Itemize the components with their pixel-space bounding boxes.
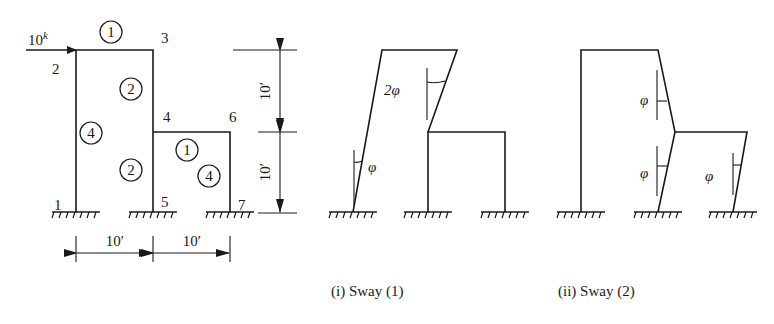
member-label-beam-2-3: 1 — [100, 21, 122, 43]
angle-label-phi-right: φ — [705, 168, 713, 184]
sway-2-diagram: φ φ φ (ii) Sway (2) — [557, 50, 757, 300]
svg-text:4: 4 — [87, 125, 95, 141]
angle-label-phi-middle: φ — [640, 165, 648, 181]
dim-v-2: 10′ — [257, 163, 273, 181]
member-label-col-1-2: 4 — [80, 122, 102, 144]
vertical-dimensions: 10′ 10′ — [233, 50, 297, 213]
dim-h-1: 10′ — [106, 233, 124, 249]
node-7: 7 — [238, 197, 246, 213]
member-label-col-4-5: 2 — [120, 159, 142, 181]
member-label-beam-4-6: 1 — [176, 139, 198, 161]
node-1: 1 — [54, 197, 62, 213]
node-2: 2 — [52, 61, 60, 77]
node-3: 3 — [161, 30, 169, 46]
svg-text:2: 2 — [127, 162, 135, 178]
fixed-support-5 — [129, 212, 177, 218]
dim-h-2: 10′ — [183, 233, 201, 249]
angle-label-2phi: 2φ — [384, 82, 400, 98]
load-label: 10k — [28, 29, 49, 48]
node-4: 4 — [163, 109, 171, 125]
node-6: 6 — [229, 109, 237, 125]
svg-text:2: 2 — [127, 81, 135, 97]
svg-text:1: 1 — [183, 142, 191, 158]
angle-label-phi: φ — [368, 159, 376, 175]
original-frame: 10k 1 2 3 4 5 6 7 1 2 4 2 — [26, 21, 297, 262]
fixed-support-7 — [206, 212, 254, 218]
svg-text:4: 4 — [205, 168, 213, 184]
structural-frame-diagram: 10k 1 2 3 4 5 6 7 1 2 4 2 — [0, 0, 774, 324]
member-label-col-3-4: 2 — [120, 78, 142, 100]
angle-label-phi-upper: φ — [640, 92, 648, 108]
sway-2-caption: (ii) Sway (2) — [558, 283, 635, 300]
svg-text:1: 1 — [107, 24, 115, 40]
dim-v-1: 10′ — [257, 82, 273, 100]
sway-1-diagram: 2φ φ (i) Sway (1) — [329, 50, 529, 300]
angle-arc — [427, 81, 445, 83]
horizontal-dimensions: 10′ 10′ — [76, 233, 230, 262]
sway-1-caption: (i) Sway (1) — [331, 283, 403, 300]
node-5: 5 — [161, 194, 169, 210]
member-label-col-6-7: 4 — [198, 165, 220, 187]
